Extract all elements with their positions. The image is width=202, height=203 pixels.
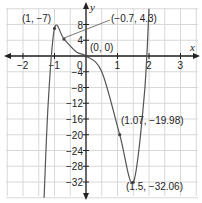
- y-tick-label: −8: [72, 83, 84, 94]
- point-marker: [53, 27, 56, 30]
- y-tick-label: 4: [77, 35, 83, 46]
- y-tick-label: −28: [66, 161, 83, 172]
- point-marker: [118, 133, 121, 136]
- y-tick-label: 8: [77, 20, 83, 31]
- y-tick-label: −24: [66, 146, 83, 157]
- leader-line-inflection: [64, 20, 110, 38]
- origin-label: 0: [77, 60, 83, 71]
- function-graph: −2−112384−4−8−12−16−20−24−28−32 y x 0 (1…: [0, 0, 202, 203]
- y-axis-label: y: [89, 1, 95, 13]
- x-tick-label: −2: [17, 60, 29, 71]
- y-axis-down-arrow-icon: [83, 193, 89, 200]
- y-tick-label: −16: [66, 114, 83, 125]
- x-tick-label: 3: [178, 60, 184, 71]
- x-tick-label: 1: [115, 60, 121, 71]
- grid-lines: [6, 8, 198, 198]
- annotation-origin: (0, 0): [90, 42, 113, 53]
- x-axis-label: x: [189, 41, 195, 53]
- annotation-midpoint: (1.07, −19.98): [121, 115, 184, 126]
- annotation-inflection: (−0.7, 4.3): [111, 13, 157, 24]
- y-axis-up-arrow-icon: [83, 2, 89, 9]
- y-tick-label: −32: [66, 177, 83, 188]
- y-tick-label: −20: [66, 130, 83, 141]
- point-marker: [84, 54, 87, 57]
- annotation-local-max: (1, −7): [22, 13, 51, 24]
- annotation-local-min: (1.5, −32.06): [126, 181, 183, 192]
- y-tick-label: −12: [66, 98, 83, 109]
